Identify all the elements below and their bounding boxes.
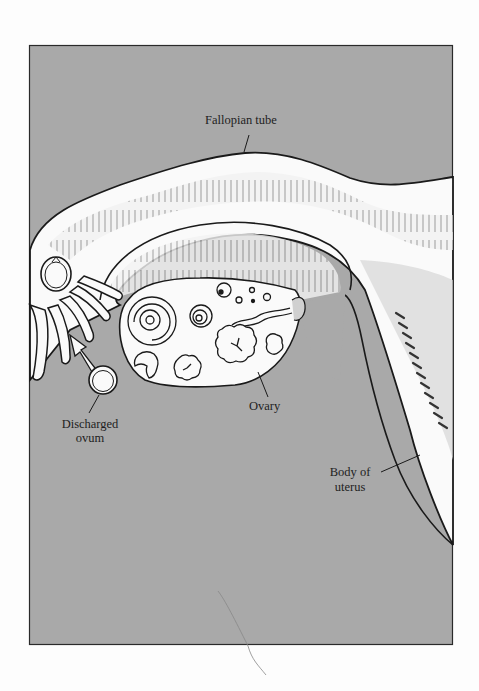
label-body-of-uterus-line2: uterus <box>320 480 380 494</box>
discharged-ovum <box>89 366 117 394</box>
label-ovary: Ovary <box>249 399 280 413</box>
anatomy-illustration: Fallopian tube Ovary Discharged ovum Bod… <box>0 0 479 691</box>
label-body-of-uterus-line1: Body of <box>320 465 380 479</box>
label-discharged-ovum-line2: ovum <box>50 431 130 445</box>
label-fallopian-tube: Fallopian tube <box>205 113 277 127</box>
label-discharged-ovum-line1: Discharged <box>50 417 130 431</box>
ovum-in-tube <box>41 257 71 291</box>
